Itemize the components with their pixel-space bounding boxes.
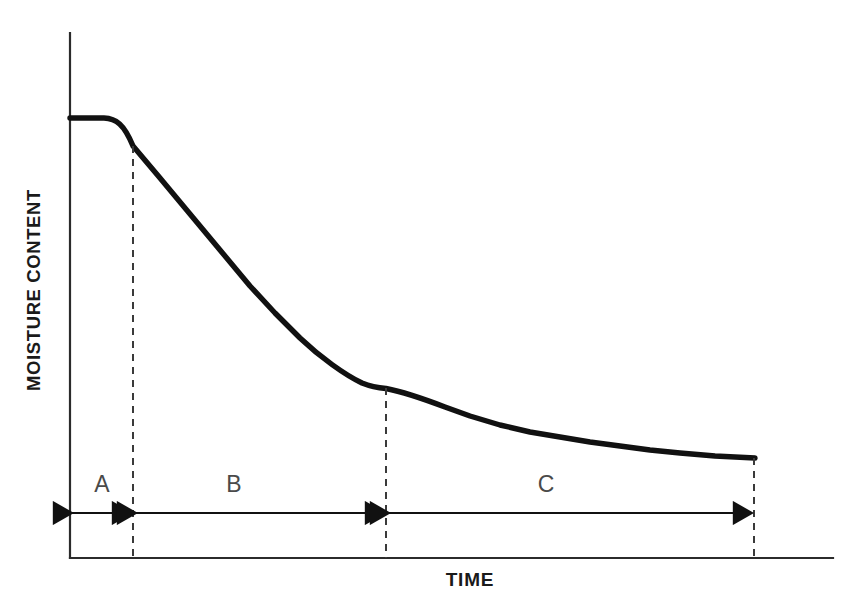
- region-label-b: B: [226, 471, 241, 497]
- region-label-c: C: [538, 471, 555, 497]
- drying-curve-chart: A B C MOISTURE CONTENT TIME: [0, 0, 862, 616]
- axis-title-group: MOISTURE CONTENT TIME: [23, 189, 494, 590]
- data-curve-group: [70, 118, 755, 458]
- region-label-group: A B C: [94, 471, 554, 497]
- region-label-a: A: [94, 471, 110, 497]
- moisture-content-curve: [70, 118, 755, 458]
- x-axis-title: TIME: [446, 569, 495, 590]
- chart-canvas: A B C MOISTURE CONTENT TIME: [0, 0, 862, 616]
- axis-group: [70, 33, 833, 558]
- y-axis-title: MOISTURE CONTENT: [23, 189, 44, 391]
